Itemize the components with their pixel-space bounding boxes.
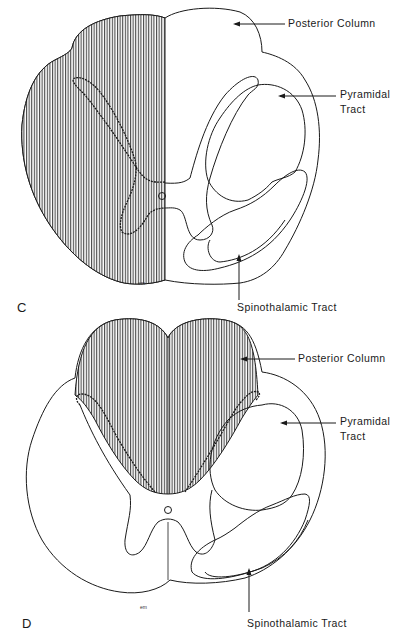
label-spinothalamic-tract-c: Spinothalamic Tract (237, 254, 337, 313)
label-pyramidal-tract-d: Pyramidal Tract (280, 415, 390, 442)
label-pyramidal-tract-c: Pyramidal Tract (278, 88, 390, 115)
panel-d: Posterior Column Pyramidal Tract Spinoth… (22, 319, 390, 631)
artist-signature-d: em (140, 604, 147, 610)
svg-text:Posterior Column: Posterior Column (288, 17, 376, 29)
label-posterior-column-d: Posterior Column (240, 352, 386, 364)
spinothalamic-tract-d (191, 494, 309, 579)
panel-letter-d: D (22, 616, 31, 631)
central-canal-d (165, 507, 172, 514)
svg-text:Spinothalamic Tract: Spinothalamic Tract (237, 301, 337, 313)
svg-text:Tract: Tract (340, 430, 366, 442)
label-spinothalamic-tract-d: Spinothalamic Tract (247, 568, 347, 629)
svg-text:Spinothalamic Tract: Spinothalamic Tract (247, 617, 347, 629)
label-posterior-column-c: Posterior Column (233, 17, 376, 29)
svg-text:Pyramidal: Pyramidal (340, 88, 390, 100)
pyramidal-tract-c (206, 84, 305, 201)
spinal-cord-diagram: Posterior Column Pyramidal Tract Spinoth… (0, 0, 413, 632)
svg-text:Posterior Column: Posterior Column (298, 352, 386, 364)
lesion-posterior-columns-d (75, 319, 258, 494)
panel-c: Posterior Column Pyramidal Tract Spinoth… (17, 8, 390, 315)
gray-matter-right-c (165, 76, 258, 240)
svg-text:Tract: Tract (340, 103, 366, 115)
artist-signature-c: em (138, 280, 145, 286)
svg-text:Pyramidal: Pyramidal (340, 415, 390, 427)
lesion-left-half-c (22, 8, 320, 284)
panel-letter-c: C (17, 300, 26, 315)
